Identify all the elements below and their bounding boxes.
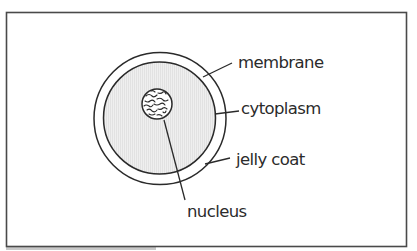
cytoplasm-label: cytoplasm — [241, 99, 321, 118]
nucleus-shape — [142, 89, 172, 119]
egg-cell-diagram: membrane cytoplasm jelly coat nucleus — [0, 0, 417, 251]
jelly-coat-label: jelly coat — [235, 150, 306, 169]
nucleus-label: nucleus — [187, 202, 247, 221]
membrane-label: membrane — [238, 53, 324, 72]
frame-shadow — [6, 247, 156, 250]
